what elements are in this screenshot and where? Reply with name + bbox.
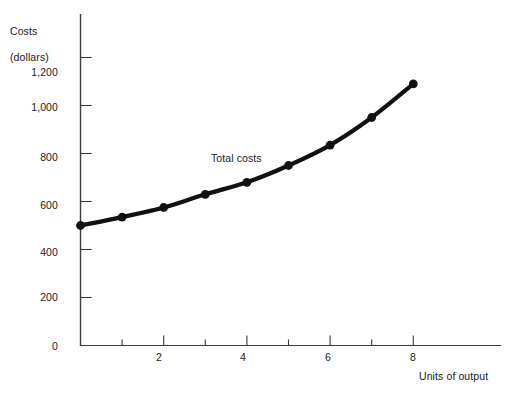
data-point	[201, 190, 210, 199]
data-point	[409, 80, 418, 89]
data-point	[367, 113, 376, 122]
series-line-total-costs	[81, 84, 414, 226]
x-axis-ticks	[122, 336, 413, 346]
data-point	[326, 141, 335, 150]
data-point	[76, 221, 85, 230]
data-point	[118, 213, 127, 222]
data-point	[284, 161, 293, 170]
data-point	[159, 203, 168, 212]
plot-area	[0, 0, 509, 396]
data-point	[243, 178, 252, 187]
y-axis-ticks	[81, 58, 92, 346]
series-points-total-costs	[76, 80, 418, 230]
axes	[81, 14, 502, 346]
chart-container: Costs (dollars) 1,200 1,000 800 600 400 …	[0, 0, 509, 396]
